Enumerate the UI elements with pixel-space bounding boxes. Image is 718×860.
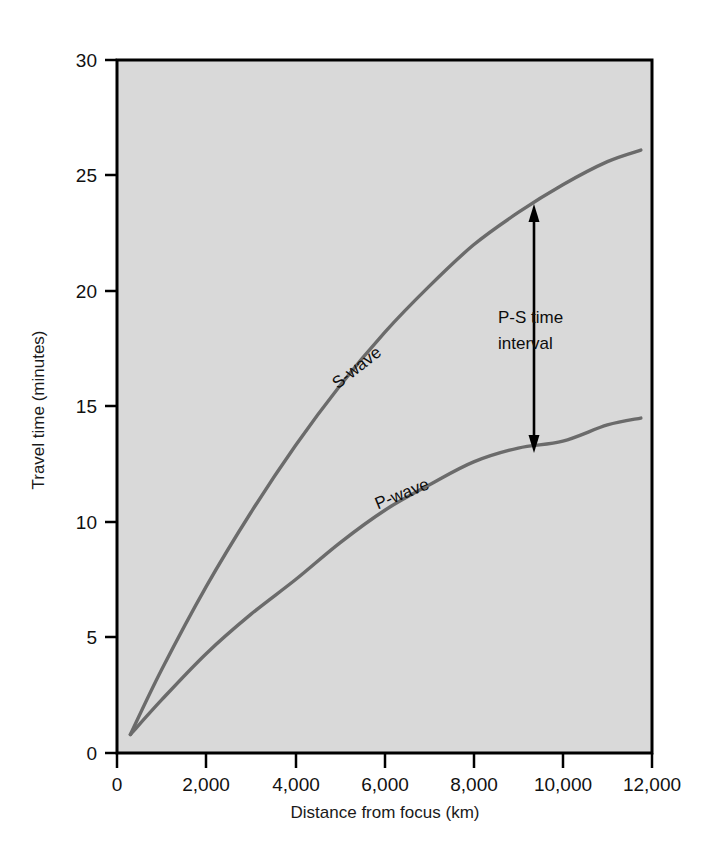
p-s-interval-label-line1: P-S time [498,308,563,327]
x-tick-label-2000: 2,000 [182,774,230,795]
y-tick-label-10: 10 [76,512,97,533]
y-tick-label-30: 30 [76,50,97,71]
x-axis-title: Distance from focus (km) [291,803,480,822]
p-s-interval-label-line2: interval [498,334,553,353]
y-tick-label-0: 0 [86,743,97,764]
x-tick-label-10000: 10,000 [534,774,592,795]
y-tick-label-15: 15 [76,396,97,417]
x-tick-label-6000: 6,000 [361,774,409,795]
x-tick-label-4000: 4,000 [272,774,320,795]
x-tick-label-12000: 12,000 [623,774,681,795]
x-tick-label-8000: 8,000 [450,774,498,795]
y-tick-label-20: 20 [76,281,97,302]
y-tick-label-5: 5 [86,627,97,648]
y-tick-label-25: 25 [76,165,97,186]
y-axis-title: Travel time (minutes) [29,330,48,489]
x-tick-label-0: 0 [112,774,123,795]
chart-svg: 30 25 20 15 10 5 0 0 2,000 4,000 6,000 8… [0,0,718,860]
travel-time-chart-figure: 30 25 20 15 10 5 0 0 2,000 4,000 6,000 8… [0,0,718,860]
plot-area-background [117,60,652,753]
